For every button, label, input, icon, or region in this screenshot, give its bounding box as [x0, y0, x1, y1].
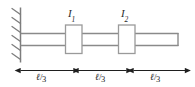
dimension-3-label: ℓ/3 [150, 73, 161, 83]
dimension-1-label: ℓ/3 [36, 73, 47, 83]
disc-2-label-subscript: 2 [124, 15, 128, 24]
dimension-3-denominator: 3 [156, 74, 160, 84]
fixed-support-wall [12, 8, 21, 63]
wall-hatching [12, 9, 21, 60]
disc-1-body [66, 25, 83, 54]
disc-1-label-subscript: 1 [71, 15, 75, 24]
disc-2-label: I2 [121, 8, 128, 22]
disc-2-body [119, 25, 136, 54]
dimension-2-denominator: 3 [101, 74, 105, 84]
shaft-rod [21, 33, 179, 46]
dimension-2-label: ℓ/3 [95, 73, 106, 83]
figure-container: I1 I2 ℓ/3 ℓ/3 ℓ/3 [0, 0, 195, 87]
disc-1-label: I1 [68, 8, 75, 22]
dimension-1-denominator: 3 [42, 74, 46, 84]
